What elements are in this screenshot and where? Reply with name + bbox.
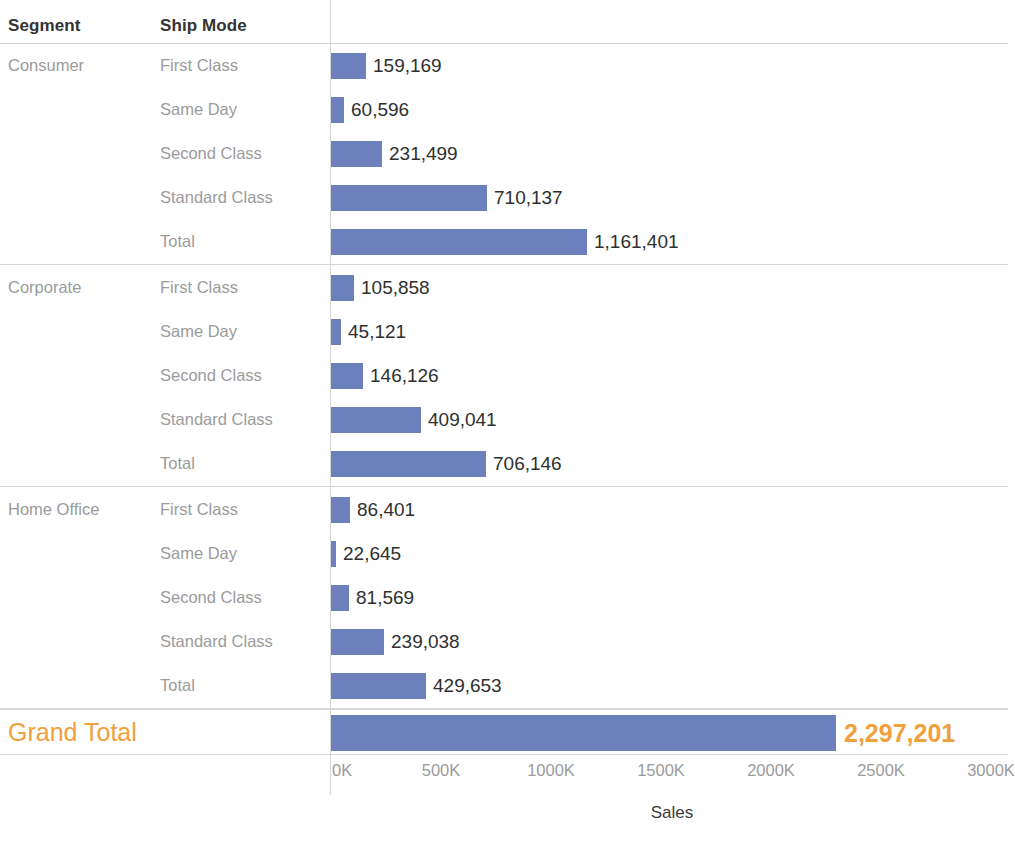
grand-total-top-divider	[0, 709, 1008, 710]
table-row[interactable]: Same Day45,121	[0, 310, 1008, 354]
table-row[interactable]: Second Class231,499	[0, 132, 1008, 176]
ship-mode-label[interactable]: First Class	[160, 500, 238, 519]
bar-mark[interactable]	[331, 673, 426, 699]
bar-value-label: 146,126	[363, 363, 439, 389]
bar-mark[interactable]	[331, 319, 341, 345]
bar-value-label: 429,653	[426, 673, 502, 699]
ship-mode-label[interactable]: First Class	[160, 56, 238, 75]
bar-value-label: 706,146	[486, 451, 562, 477]
x-axis-tick-label: 2500K	[857, 761, 905, 780]
bar-mark[interactable]	[331, 363, 363, 389]
bar-mark[interactable]	[331, 97, 344, 123]
column-header-ship-mode[interactable]: Ship Mode	[160, 16, 247, 36]
x-axis-tick-label: 3000K	[967, 761, 1015, 780]
ship-mode-label[interactable]: Standard Class	[160, 632, 273, 651]
bar-mark[interactable]	[331, 275, 354, 301]
bar-value-label: 239,038	[384, 629, 460, 655]
table-row[interactable]: Total429,653	[0, 664, 1008, 708]
bar-value-label: 81,569	[349, 585, 414, 611]
bar-mark[interactable]	[331, 451, 486, 477]
table-row[interactable]: Second Class146,126	[0, 354, 1008, 398]
grand-total-row[interactable]: Grand Total2,297,201	[0, 712, 1008, 754]
segment-divider	[0, 264, 1008, 265]
ship-mode-label[interactable]: Second Class	[160, 588, 262, 607]
table-header-row: Segment Ship Mode	[0, 0, 1008, 43]
table-row[interactable]: First Class86,401	[0, 488, 1008, 532]
x-axis[interactable]: 0K500K1000K1500K2000K2500K3000KSales	[0, 755, 1008, 850]
bar-mark[interactable]	[331, 53, 366, 79]
table-row[interactable]: Same Day60,596	[0, 88, 1008, 132]
x-axis-tick-label: 1000K	[527, 761, 575, 780]
ship-mode-label[interactable]: Same Day	[160, 322, 237, 341]
ship-mode-label[interactable]: Same Day	[160, 100, 237, 119]
bar-mark[interactable]	[331, 629, 384, 655]
table-row[interactable]: Standard Class710,137	[0, 176, 1008, 220]
table-row[interactable]: Standard Class409,041	[0, 398, 1008, 442]
bar-value-label: 86,401	[350, 497, 415, 523]
bar-mark[interactable]	[331, 185, 487, 211]
x-axis-tick-label: 2000K	[747, 761, 795, 780]
ship-mode-label[interactable]: Second Class	[160, 366, 262, 385]
bar-value-label: 710,137	[487, 185, 563, 211]
grand-total-bar-mark[interactable]	[331, 715, 836, 751]
bar-mark[interactable]	[331, 585, 349, 611]
bar-value-label: 105,858	[354, 275, 430, 301]
ship-mode-label[interactable]: Standard Class	[160, 410, 273, 429]
table-row[interactable]: Total706,146	[0, 442, 1008, 486]
bar-value-label: 60,596	[344, 97, 409, 123]
bar-value-label: 22,645	[336, 541, 401, 567]
table-row[interactable]: Second Class81,569	[0, 576, 1008, 620]
ship-mode-label[interactable]: Standard Class	[160, 188, 273, 207]
bar-value-label: 45,121	[341, 319, 406, 345]
table-row[interactable]: Total1,161,401	[0, 220, 1008, 264]
bar-value-label: 159,169	[366, 53, 442, 79]
ship-mode-label[interactable]: Total	[160, 676, 195, 695]
table-row[interactable]: Same Day22,645	[0, 532, 1008, 576]
grand-total-value-label: 2,297,201	[836, 716, 955, 750]
grand-total-label[interactable]: Grand Total	[8, 718, 137, 747]
bar-mark[interactable]	[331, 497, 350, 523]
table-row[interactable]: First Class105,858	[0, 266, 1008, 310]
bar-value-label: 231,499	[382, 141, 458, 167]
x-axis-tick-label: 500K	[422, 761, 461, 780]
x-axis-tick-label: 1500K	[637, 761, 685, 780]
bar-value-label: 409,041	[421, 407, 497, 433]
ship-mode-label[interactable]: Total	[160, 454, 195, 473]
ship-mode-label[interactable]: Same Day	[160, 544, 237, 563]
bar-mark[interactable]	[331, 407, 421, 433]
x-axis-tick-label: 0K	[332, 761, 352, 780]
segment-divider	[0, 486, 1008, 487]
bar-mark[interactable]	[331, 229, 587, 255]
table-row[interactable]: Standard Class239,038	[0, 620, 1008, 664]
bar-value-label: 1,161,401	[587, 229, 679, 255]
x-axis-title: Sales	[651, 803, 694, 823]
column-header-segment[interactable]: Segment	[8, 16, 81, 36]
ship-mode-label[interactable]: Total	[160, 232, 195, 251]
bar-mark[interactable]	[331, 141, 382, 167]
ship-mode-label[interactable]: First Class	[160, 278, 238, 297]
ship-mode-label[interactable]: Second Class	[160, 144, 262, 163]
table-row[interactable]: First Class159,169	[0, 44, 1008, 88]
